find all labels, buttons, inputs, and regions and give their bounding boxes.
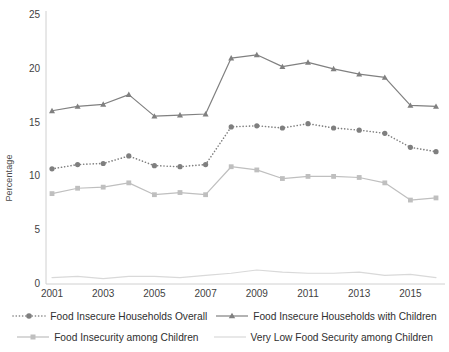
- data-point: [126, 92, 132, 97]
- series-2: [50, 164, 439, 202]
- data-point: [101, 161, 106, 166]
- data-point: [408, 198, 413, 203]
- data-point: [280, 125, 285, 130]
- data-point: [203, 192, 208, 197]
- legend-swatch-icon: [12, 310, 46, 322]
- data-point: [126, 180, 131, 185]
- series-line: [52, 270, 436, 279]
- data-point: [305, 121, 310, 126]
- legend-item-0[interactable]: Food Insecure Households Overall: [12, 306, 207, 326]
- data-point: [306, 174, 311, 179]
- data-point: [75, 162, 80, 167]
- food-insecurity-line-chart: Percentage 2520151050 200120032005200720…: [0, 0, 449, 352]
- legend-item-1[interactable]: Food Insecure Households with Children: [215, 306, 436, 326]
- legend-row-1: Food Insecure Households OverallFood Ins…: [0, 306, 449, 326]
- data-point: [75, 186, 80, 191]
- series-3: [52, 270, 436, 279]
- legend-label: Food Insecure Households with Children: [253, 311, 436, 322]
- data-point: [382, 131, 387, 136]
- data-point: [152, 192, 157, 197]
- legend-swatch-icon: [16, 331, 50, 343]
- series-line: [52, 55, 436, 116]
- data-point: [382, 180, 387, 185]
- series-line: [52, 167, 436, 200]
- data-point: [357, 128, 362, 133]
- data-point: [254, 123, 259, 128]
- legend-swatch-icon: [213, 331, 247, 343]
- data-point: [305, 59, 311, 64]
- series-line: [52, 124, 436, 169]
- plot-area: [0, 0, 449, 300]
- data-point: [280, 176, 285, 181]
- data-point: [408, 145, 413, 150]
- data-point: [126, 153, 131, 158]
- data-point: [50, 191, 55, 196]
- legend-swatch-icon: [215, 310, 249, 322]
- series-0: [49, 121, 438, 171]
- legend-row-2: Food Insecurity among ChildrenVery Low F…: [0, 327, 449, 347]
- data-point: [49, 166, 54, 171]
- data-point: [434, 196, 439, 201]
- data-point: [203, 162, 208, 167]
- chart-legend: Food Insecure Households OverallFood Ins…: [0, 306, 449, 352]
- data-point: [177, 164, 182, 169]
- legend-label: Food Insecure Households Overall: [50, 311, 207, 322]
- data-point: [229, 164, 234, 169]
- legend-item-3[interactable]: Very Low Food Security among Children: [213, 327, 433, 347]
- series-1: [49, 52, 439, 119]
- legend-label: Food Insecurity among Children: [54, 332, 198, 343]
- data-point: [152, 163, 157, 168]
- data-point: [229, 124, 234, 129]
- data-point: [254, 168, 259, 173]
- data-point: [178, 190, 183, 195]
- data-point: [433, 149, 438, 154]
- legend-item-2[interactable]: Food Insecurity among Children: [16, 327, 198, 347]
- legend-label: Very Low Food Security among Children: [251, 332, 433, 343]
- data-point: [357, 175, 362, 180]
- data-point: [331, 174, 336, 179]
- data-point: [331, 125, 336, 130]
- data-point: [101, 185, 106, 190]
